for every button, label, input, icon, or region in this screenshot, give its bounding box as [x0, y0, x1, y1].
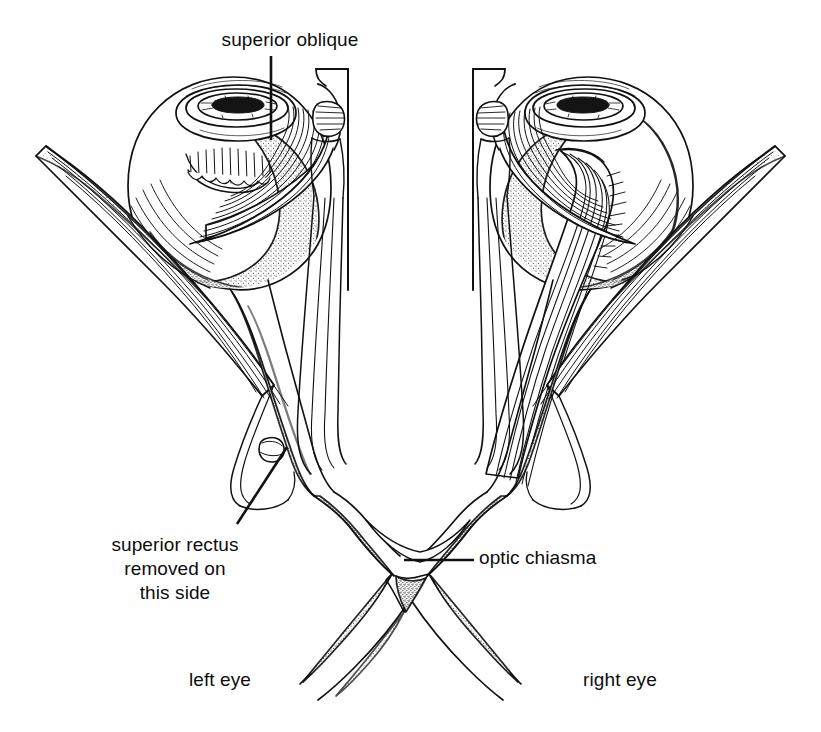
eye-muscle-illustration: [0, 0, 821, 732]
label-left-eye: left eye: [120, 668, 320, 692]
anatomy-figure: superior oblique superior rectus removed…: [0, 0, 821, 732]
label-optic-chiasma: optic chiasma: [479, 546, 596, 570]
canvas-background: [0, 0, 821, 732]
label-superior-rectus-removed: superior rectus removed on this side: [30, 533, 320, 605]
label-superior-oblique: superior oblique: [0, 28, 580, 52]
label-right-eye: right eye: [520, 668, 720, 692]
